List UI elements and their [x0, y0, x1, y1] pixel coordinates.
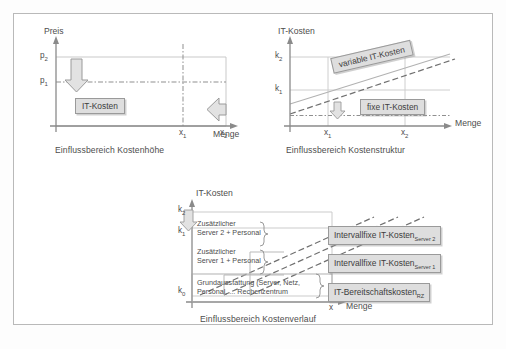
segment-2-line2: Server 1 + Personal: [197, 256, 261, 265]
segment-3-line2: Server 2 + Personal: [197, 228, 261, 237]
panel-kostenstruktur: IT-Kosten Menge k2 k1 x1 x2 variable IT-…: [250, 14, 492, 162]
fixed-cost-decrease-arrow-shape: [330, 102, 345, 119]
y-tick-k0: k0: [178, 286, 185, 297]
legend-box-1-sub: RZ: [417, 292, 424, 298]
brace-segment-1: [316, 274, 324, 298]
figure-frame: Preis Menge p2 p1 x1 x2 IT-Kosten Einflu…: [13, 13, 493, 325]
fixe-it-kosten-box: fixe IT-Kosten: [360, 99, 425, 115]
chart-kostenstruktur-svg: [250, 14, 492, 162]
segment-2-line1: Zusätzlicher: [197, 247, 236, 256]
brace-segment-3: [260, 222, 268, 246]
x-tick-x: x: [329, 303, 333, 312]
segment-1-inner-label: Grundausstattung (Server, Netz, Personal…: [197, 278, 300, 296]
panel-kostenhoehe: Preis Menge p2 p1 x1 x2 IT-Kosten Einflu…: [14, 14, 244, 162]
segment-1-line1: Grundausstattung (Server, Netz,: [197, 278, 300, 287]
y-tick-p2: p2: [40, 51, 48, 62]
legend-box-intervallfixe-server1: Intervallfixe IT-KostenServer 1: [328, 254, 441, 273]
panel-kostenverlauf: IT-Kosten Menge k2 k1 k0 x Zusätzlicher …: [14, 162, 492, 324]
y-axis-label-it-kosten: IT-Kosten: [278, 26, 315, 36]
legend-box-3-sub: Server 2: [415, 235, 436, 241]
legend-box-1-label: IT-Bereitschaftskosten: [334, 287, 417, 297]
price-decrease-arrow-shape: [65, 59, 88, 92]
legend-box-2-sub: Server 1: [415, 263, 436, 269]
y-tick-k2: k2: [275, 51, 282, 62]
x-tick-x2: x2: [401, 128, 408, 139]
y-axis-label-preis: Preis: [44, 26, 64, 36]
x-axis-label-menge: Menge: [346, 301, 372, 311]
chart-kostenhoehe-svg: [14, 14, 244, 162]
caption-kostenhoehe: Einflussbereich Kostenhöhe: [55, 145, 164, 155]
x-tick-x2: x2: [220, 128, 227, 139]
y-axis-label-it-kosten: IT-Kosten: [196, 188, 233, 198]
brace-segment-2: [260, 250, 268, 274]
quantity-decrease-arrow-shape: [207, 98, 226, 121]
segment-1-line2: Personal, ... Rechenzentrum: [197, 287, 288, 296]
y-tick-p1: p1: [40, 76, 48, 87]
figure-canvas: Preis Menge p2 p1 x1 x2 IT-Kosten Einflu…: [0, 0, 506, 349]
segment-2-inner-label: Zusätzlicher Server 1 + Personal: [197, 247, 261, 265]
x-tick-x1: x1: [324, 128, 331, 139]
legend-box-bereitschaftskosten: IT-BereitschaftskostenRZ: [328, 283, 430, 302]
segment-3-line1: Zusätzlicher: [197, 219, 236, 228]
it-kosten-area-box: IT-Kosten: [75, 98, 125, 114]
y-tick-k2: k2: [178, 205, 185, 216]
x-tick-x1: x1: [179, 128, 186, 139]
caption-kostenstruktur: Einflussbereich Kostenstruktur: [286, 145, 405, 155]
y-tick-k1: k1: [178, 226, 185, 237]
legend-box-3-label: Intervallfixe IT-Kosten: [334, 230, 415, 240]
caption-kostenverlauf: Einflussbereich Kostenverlauf: [200, 314, 316, 324]
legend-box-intervallfixe-server2: Intervallfixe IT-KostenServer 2: [328, 226, 441, 245]
x-axis-label-menge: Menge: [455, 118, 481, 128]
y-tick-k1: k1: [275, 84, 282, 95]
legend-box-2-label: Intervallfixe IT-Kosten: [334, 258, 415, 268]
segment-3-inner-label: Zusätzlicher Server 2 + Personal: [197, 219, 261, 237]
